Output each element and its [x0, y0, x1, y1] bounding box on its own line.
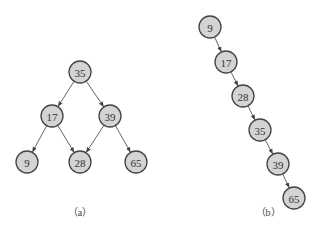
edge-b-9-17 [215, 37, 222, 52]
node-label: 65 [131, 157, 143, 169]
node-a-65: 65 [125, 151, 147, 173]
node-a-35: 35 [69, 61, 91, 83]
node-label: 9 [24, 157, 30, 169]
edge-a-35-17 [58, 81, 74, 106]
nodes-b: 91728353965 [199, 16, 305, 209]
caption-b: （b） [256, 207, 281, 218]
node-label: 17 [47, 111, 59, 123]
edge-a-17-9 [32, 126, 46, 152]
edge-a-35-39 [86, 81, 103, 106]
node-b-17: 17 [215, 51, 237, 73]
node-b-35: 35 [249, 119, 271, 141]
node-a-9: 9 [16, 151, 38, 173]
node-label: 39 [105, 111, 117, 123]
node-label: 39 [273, 159, 285, 171]
tree-diagram-b: 91728353965 （b） [199, 16, 305, 218]
node-label: 17 [221, 57, 233, 69]
node-a-39: 39 [99, 105, 121, 127]
node-label: 9 [207, 22, 213, 34]
node-label: 35 [75, 67, 87, 79]
node-a-28: 28 [69, 151, 91, 173]
node-label: 28 [238, 91, 250, 103]
node-b-65: 65 [283, 187, 305, 209]
edge-a-17-28 [58, 125, 74, 152]
node-label: 65 [289, 193, 301, 205]
edge-a-39-28 [86, 125, 104, 152]
node-label: 28 [75, 157, 87, 169]
edge-b-35-39 [265, 140, 272, 154]
node-b-39: 39 [267, 153, 289, 175]
caption-a: （a） [68, 207, 92, 218]
tree-diagram-a: 35173992865 （a） [16, 61, 147, 218]
node-label: 35 [255, 125, 267, 137]
edge-a-39-65 [115, 126, 130, 152]
diagram-canvas: 35173992865 （a） 91728353965 （b） [0, 0, 322, 246]
edge-b-39-65 [283, 174, 289, 188]
node-b-9: 9 [199, 16, 221, 38]
edge-b-17-28 [231, 72, 238, 86]
edge-b-28-35 [248, 106, 255, 120]
nodes-a: 35173992865 [16, 61, 147, 173]
node-b-28: 28 [232, 85, 254, 107]
node-a-17: 17 [41, 105, 63, 127]
